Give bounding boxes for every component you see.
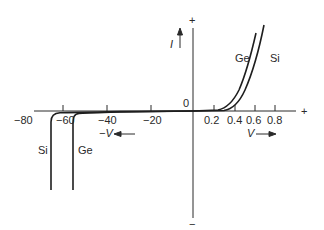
ge-forward-curve — [193, 33, 256, 111]
y-axis-minus-sign: − — [189, 218, 195, 230]
si-reverse-label: Si — [38, 144, 48, 156]
tick-label-pos-0-6: 0.6 — [246, 114, 261, 126]
ge-reverse-label: Ge — [78, 144, 93, 156]
y-axis-label: I — [170, 38, 173, 50]
si-forward-curve — [193, 25, 264, 111]
arrow-left-icon — [114, 132, 135, 137]
negative-direction-label: −V — [99, 127, 114, 139]
si-forward-label: Si — [270, 52, 280, 64]
origin-label: 0 — [183, 97, 189, 109]
tick-label-neg-20: −20 — [143, 114, 162, 126]
tick-label-neg-80: −80 — [14, 114, 33, 126]
ge-forward-label: Ge — [235, 52, 250, 64]
tick-label-neg-60: −60 — [56, 114, 75, 126]
diode-iv-diagram: −80 −60 −40 −20 0 0.2 0.4 0.6 0.8 + + − … — [0, 0, 324, 230]
x-axis-plus-sign: + — [301, 105, 307, 117]
tick-label-pos-0-2: 0.2 — [204, 114, 219, 126]
tick-label-pos-0-8: 0.8 — [267, 114, 282, 126]
curves — [51, 25, 264, 190]
arrow-right-icon — [256, 132, 276, 137]
y-axis-plus-sign: + — [189, 14, 195, 26]
tick-label-pos-0-4: 0.4 — [227, 114, 242, 126]
tick-label-neg-40: −40 — [98, 114, 117, 126]
arrow-up-icon — [178, 28, 183, 48]
positive-direction-label: V — [247, 127, 256, 139]
